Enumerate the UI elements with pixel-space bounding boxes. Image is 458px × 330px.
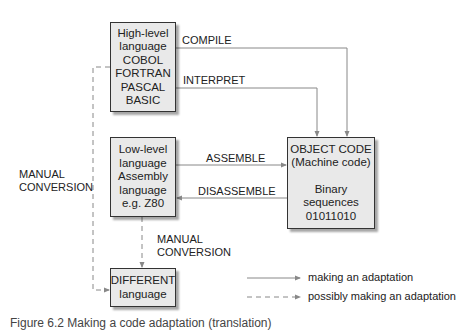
assemble-label: ASSEMBLE xyxy=(206,152,265,165)
manual-conversion-left-arrow xyxy=(93,67,110,290)
manual-conversion-left-label: MANUAL CONVERSION xyxy=(19,168,93,193)
label-line: MANUAL xyxy=(19,168,93,181)
compile-arrow xyxy=(176,48,347,136)
box-line: Low-level xyxy=(119,143,168,157)
legend-solid-text: making an adaptation xyxy=(308,271,413,283)
interpret-arrow xyxy=(176,88,317,136)
box-line: 01011010 xyxy=(306,210,356,224)
box-line: High-level xyxy=(117,27,168,41)
low-level-language-box: Low-level language Assembly language e.g… xyxy=(110,137,176,217)
box-line: e.g. Z80 xyxy=(122,197,164,211)
label-line: CONVERSION xyxy=(157,246,231,259)
box-line: Binary xyxy=(315,183,348,197)
label-line: CONVERSION xyxy=(19,181,93,194)
different-language-box: DIFFERENT language xyxy=(110,268,176,307)
box-line: (Machine code) xyxy=(291,156,370,170)
box-line: PASCAL xyxy=(121,81,166,95)
box-line: DIFFERENT xyxy=(111,274,176,288)
figure-caption: Figure 6.2 Making a code adaptation (tra… xyxy=(10,316,272,330)
box-line: language xyxy=(119,288,166,302)
compile-label: COMPILE xyxy=(182,34,232,47)
object-code-box: OBJECT CODE (Machine code) Binary sequen… xyxy=(287,137,375,229)
box-line: Assembly xyxy=(118,170,168,184)
box-line: language xyxy=(119,157,166,171)
box-line: language xyxy=(119,40,166,54)
manual-conversion-middle-label: MANUAL CONVERSION xyxy=(157,233,231,258)
interpret-label: INTERPRET xyxy=(183,74,245,87)
box-line: FORTRAN xyxy=(115,67,170,81)
legend-dashed-text: possibly making an adaptation xyxy=(308,290,456,302)
box-line: language xyxy=(119,184,166,198)
box-line: sequences xyxy=(303,196,359,210)
label-line: MANUAL xyxy=(157,233,231,246)
high-level-language-box: High-level language COBOL FORTRAN PASCAL… xyxy=(110,22,176,112)
box-line: COBOL xyxy=(123,54,163,68)
box-line: OBJECT CODE xyxy=(290,143,372,157)
box-line: BASIC xyxy=(126,94,161,108)
disassemble-label: DISASSEMBLE xyxy=(198,185,276,198)
